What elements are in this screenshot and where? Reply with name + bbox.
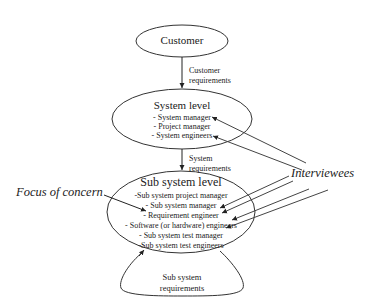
sub-system-level-title: Sub system level: [121, 176, 241, 188]
system-level-member: - System manager: [132, 114, 232, 122]
interviewees-annotation: Interviewees: [291, 167, 354, 180]
edge-label-line-2: requirements: [189, 164, 231, 174]
edge-label-customer-requirements: Customer requirements: [189, 66, 231, 86]
sub-system-level-member: -Sub system project manager: [111, 192, 251, 200]
system-level-member: - Project manager: [132, 123, 232, 131]
system-level-member: - System engineers: [132, 132, 232, 140]
sub-system-requirements-line-2: requirements: [132, 283, 232, 294]
system-level-title: System level: [132, 100, 232, 111]
edge-label-line-1: Customer: [189, 66, 231, 76]
edge-label-line-2: requirements: [189, 76, 231, 86]
sub-system-level-member: - Requirement engineer: [111, 212, 251, 220]
sub-system-level-member: - Sub system test manager: [111, 232, 251, 240]
sub-system-level-member: - Software (or hardware) engineers: [106, 222, 256, 230]
sub-system-level-member: - Sub system manager: [111, 202, 251, 210]
focus-of-concern-annotation: Focus of concern: [16, 186, 103, 199]
sub-system-level-member: -Sub system test engineers: [111, 242, 251, 250]
edge-label-system-requirements: System requirements: [189, 154, 231, 174]
customer-node-label: Customer: [136, 35, 228, 46]
feedback-arrow: [139, 250, 144, 256]
sub-system-requirements-line-1: Sub system: [132, 272, 232, 283]
sub-system-requirements-label: Sub system requirements: [132, 272, 232, 294]
edge-label-line-1: System: [189, 154, 231, 164]
